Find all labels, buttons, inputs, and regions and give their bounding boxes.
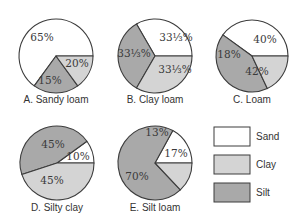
pie-A: 65%20%15%A. Sandy loam — [19, 19, 93, 105]
slice-value-label: 17% — [164, 147, 187, 159]
pie-D: 10%45%45%D. Silty clay — [20, 126, 94, 213]
slice-value-label: 45% — [40, 174, 63, 186]
soil-texture-pie-charts: 65%20%15%A. Sandy loam33⅓%33⅓%33⅓%B. Cla… — [0, 0, 305, 224]
legend-item-silt: Silt — [214, 183, 270, 202]
pie-C: 40%42%18%C. Loam — [216, 20, 288, 105]
slice-value-label: 65% — [30, 31, 53, 43]
pie-title: A. Sandy loam — [23, 94, 88, 105]
slice-value-label: 20% — [65, 57, 88, 69]
slice-value-label: 33⅓% — [158, 63, 192, 75]
pie-title: E. Silt loam — [130, 202, 181, 213]
slice-value-label: 45% — [41, 138, 64, 150]
slice-value-label: 70% — [125, 170, 148, 182]
slice-value-label: 33⅓% — [159, 31, 193, 43]
slice-value-label: 13% — [145, 126, 168, 138]
pie-title: B. Clay loam — [127, 94, 184, 105]
pie-E: 17%70%13%E. Silt loam — [118, 126, 192, 213]
slice-value-label: 15% — [38, 74, 61, 86]
legend-label: Sand — [256, 131, 279, 142]
legend-item-clay: Clay — [214, 155, 276, 174]
legend-swatch — [214, 183, 250, 202]
legend-item-sand: Sand — [214, 127, 279, 146]
legend-label: Silt — [256, 187, 270, 198]
slice-value-label: 42% — [245, 65, 268, 77]
legend-swatch — [214, 155, 250, 174]
slice-value-label: 10% — [66, 150, 89, 162]
legend: SandClaySilt — [214, 127, 279, 202]
slice-value-label: 33⅓% — [117, 47, 151, 59]
slice-value-label: 18% — [217, 48, 240, 60]
legend-label: Clay — [256, 159, 276, 170]
pie-title: D. Silty clay — [31, 202, 83, 213]
slice-value-label: 40% — [253, 33, 276, 45]
legend-swatch — [214, 127, 250, 146]
pie-title: C. Loam — [233, 94, 271, 105]
pie-B: 33⅓%33⅓%33⅓%B. Clay loam — [117, 19, 193, 105]
